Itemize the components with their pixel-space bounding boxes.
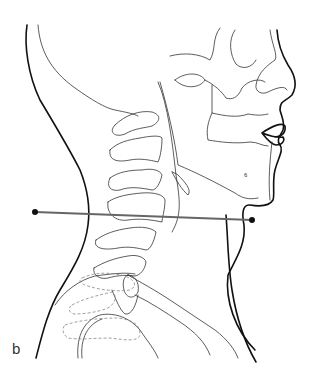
clavicle [128,275,238,358]
vertebra-c5 [95,227,156,250]
chin-inner-line [269,142,272,200]
mandible-body [207,113,268,146]
occiput-inner-line [38,25,138,116]
nose-inner-line [256,30,287,93]
hyoid [172,172,189,195]
face-profile-outline [227,30,295,350]
zygomatic-line [170,28,220,60]
spinal-canal-line [158,82,179,232]
anterior-neck-outline [226,215,256,362]
posterior-neck-outline [26,25,89,358]
scapula-dashed-2 [69,292,115,314]
humeral-head [78,314,158,358]
head-neck-drawing: 6 [0,0,326,378]
vertebra-c2 [110,136,162,162]
vertebra-c3 [108,169,162,190]
tooth-mark: 6 [244,172,248,178]
measurement-end-point [249,217,255,223]
upper-dentition [212,85,268,116]
maxilla-line [205,80,265,99]
scapula-dashed-3 [63,318,140,340]
clavicle-head [123,275,138,297]
panel-label: b [12,340,20,357]
measurement-line [35,212,252,220]
orbit-line [231,30,256,67]
condyle-fossa [175,74,205,87]
vertebra-c4 [108,193,165,222]
measurement-start-point [32,209,38,215]
lips [262,124,285,145]
